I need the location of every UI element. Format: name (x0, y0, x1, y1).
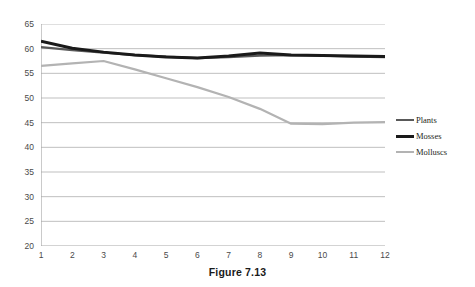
legend-label: Mosses (416, 131, 442, 141)
legend-item-molluscs[interactable]: Molluscs (396, 144, 475, 160)
legend-item-mosses[interactable]: Mosses (396, 128, 475, 144)
y-tick-label: 50 (25, 93, 34, 103)
x-tick-label: 4 (132, 249, 137, 261)
series-line-mosses (41, 41, 385, 58)
x-tick-label: 2 (70, 249, 75, 261)
x-tick-label: 3 (101, 249, 106, 261)
legend-line-swatch (396, 151, 414, 153)
plot-area (41, 24, 385, 246)
y-tick-label: 40 (25, 142, 34, 152)
data-series (41, 41, 385, 124)
x-tick-label: 9 (289, 249, 294, 261)
y-axis-labels: 20253035404550556065 (0, 16, 38, 254)
chart-legend: PlantsMossesMolluscs (396, 112, 475, 160)
figure-container: 20253035404550556065 123456789101112 Pla… (0, 0, 475, 287)
x-tick-label: 10 (318, 249, 327, 261)
legend-label: Molluscs (416, 147, 447, 157)
y-tick-label: 25 (25, 216, 34, 226)
x-tick-label: 6 (195, 249, 200, 261)
x-tick-label: 7 (226, 249, 231, 261)
series-line-molluscs (41, 61, 385, 124)
legend-item-plants[interactable]: Plants (396, 112, 475, 128)
y-tick-label: 55 (25, 68, 34, 78)
legend-line-swatch (396, 135, 414, 138)
y-tick-label: 60 (25, 44, 34, 54)
x-tick-label: 1 (39, 249, 44, 261)
legend-line-swatch (396, 119, 414, 121)
x-tick-label: 8 (258, 249, 263, 261)
line-chart (41, 24, 385, 246)
figure-caption: Figure 7.13 (0, 266, 475, 278)
y-tick-label: 45 (25, 118, 34, 128)
x-tick-label: 11 (349, 249, 358, 261)
legend-label: Plants (416, 115, 437, 125)
y-tick-label: 30 (25, 192, 34, 202)
y-tick-label: 35 (25, 167, 34, 177)
x-tick-label: 12 (380, 249, 389, 261)
y-tick-label: 20 (25, 241, 34, 251)
x-axis-labels: 123456789101112 (41, 249, 385, 265)
x-tick-label: 5 (164, 249, 169, 261)
y-tick-label: 65 (25, 19, 34, 29)
